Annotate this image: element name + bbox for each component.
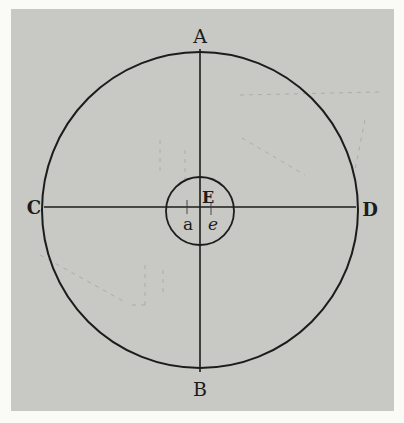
label-C: C bbox=[27, 197, 41, 218]
label-D: D bbox=[362, 199, 378, 220]
faint-dashed-line bbox=[242, 138, 305, 175]
label-B: B bbox=[193, 378, 207, 400]
geometric-diagram: A B C D E a e bbox=[0, 0, 404, 423]
label-E: E bbox=[202, 188, 214, 207]
page: A B C D E a e bbox=[0, 0, 404, 423]
faint-dashed-line bbox=[240, 92, 380, 95]
label-a: a bbox=[183, 214, 193, 234]
label-A: A bbox=[192, 25, 207, 47]
faint-dashed-line bbox=[355, 120, 365, 170]
label-e: e bbox=[208, 214, 218, 234]
faint-dashed-line bbox=[40, 255, 125, 302]
